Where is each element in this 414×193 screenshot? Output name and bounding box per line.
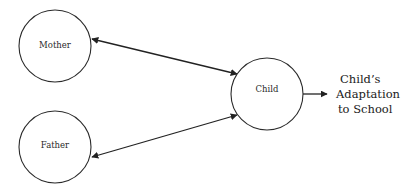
node-mother: Mother (19, 10, 91, 82)
child-label: Child (256, 84, 279, 94)
mother-label: Mother (39, 40, 72, 50)
node-child: Child (231, 58, 303, 130)
outcome-line-2: Adaptation (335, 87, 401, 101)
father-child-bidirectional-arrow (92, 115, 237, 157)
outcome-line-1: Child’s (340, 72, 381, 86)
child-circle (231, 58, 303, 130)
mother-child-bidirectional-arrow (92, 39, 237, 74)
family-relationship-diagram: Mother Father Child Child’s Adaptation t… (0, 0, 414, 193)
outcome-label: Child’s Adaptation to School (335, 72, 401, 116)
father-label: Father (41, 140, 70, 150)
outcome-line-3: to School (338, 102, 393, 116)
node-father: Father (19, 111, 91, 183)
